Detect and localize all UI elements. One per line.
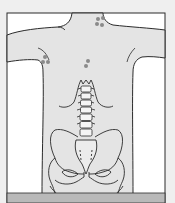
marker-dot [100,23,104,27]
bottom-band [7,193,165,203]
anatomy-diagram [0,0,175,203]
marker-dot [101,16,105,20]
marker-dot [41,60,45,64]
marker-dot [43,55,47,59]
marker-dot [96,17,100,21]
marker-dot [46,60,50,64]
marker-dot [84,64,88,68]
torso-illustration [0,0,175,203]
marker-dot [95,22,99,26]
marker-dot [86,59,90,63]
